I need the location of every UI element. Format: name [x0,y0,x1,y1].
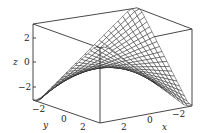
plot-canvas: 2 0 −2 z −2 0 2 y 2 0 −2 x [0,0,208,133]
surface-plot: 2 0 −2 z −2 0 2 y 2 0 −2 x [0,0,208,133]
y-tick-0: 0 [61,114,67,124]
x-tick-neg2: −2 [172,109,185,119]
y-tick-neg2: −2 [32,104,45,114]
z-axis: 2 0 −2 z [12,33,36,92]
x-axis-label: x [162,122,167,132]
x-tick-0: 0 [147,115,153,125]
z-axis-label: z [12,57,18,67]
y-axis-label: y [42,120,49,130]
x-tick-2: 2 [121,122,127,132]
z-tick-2: 2 [24,33,30,43]
y-tick-2: 2 [80,122,86,132]
x-axis: 2 0 −2 x [121,109,185,132]
z-tick-0: 0 [24,57,30,67]
z-tick-neg2: −2 [18,82,31,92]
y-axis: −2 0 2 y [32,104,86,132]
surface-mesh [33,8,192,106]
